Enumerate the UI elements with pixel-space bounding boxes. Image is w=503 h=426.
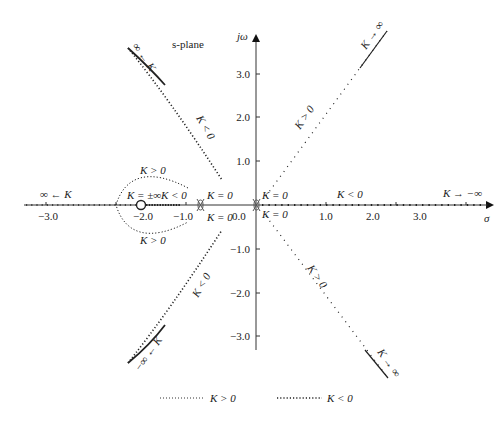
pole2-top-label: K = 0: [261, 189, 288, 201]
legend-label-negative: K < 0: [326, 392, 353, 404]
y-tick: −1.0: [230, 243, 250, 255]
x-tick: −1.0: [173, 210, 193, 222]
x-tick: 2.0: [366, 210, 380, 222]
y-axis-label: jω: [235, 30, 248, 42]
lower-left-end-label: −∞ ← K: [132, 334, 165, 373]
pole1-bottom-label: K = 0: [206, 211, 233, 223]
upper-right-branch-label: K > 0: [291, 103, 316, 132]
y-tick: −3.0: [230, 330, 250, 342]
root-locus-diagram: −3.0 −2.0 −1.0 0.0 1.0 2.0 3.0 3.0 2.0 1…: [0, 0, 503, 426]
upper-left-branch-label: K < 0: [194, 112, 218, 142]
right-axis-branch-label: K < 0: [336, 188, 363, 200]
legend: K > 0 K < 0: [160, 392, 353, 404]
x-axis-label: σ: [484, 212, 490, 224]
pole1-top-label: K = 0: [206, 189, 233, 201]
y-tick: 1.0: [236, 155, 250, 167]
legend-label-positive: K > 0: [209, 392, 236, 404]
y-tick: 2.0: [236, 111, 250, 123]
lower-right-branch-label: K > 0: [305, 261, 330, 290]
upper-left-end-label: ∞ ← K: [130, 40, 158, 73]
plane-title: s-plane: [172, 38, 204, 50]
left-axis-end-label: ∞ ← K: [40, 188, 72, 200]
zero-label: K = ±∞: [126, 189, 161, 201]
axes: [24, 36, 492, 350]
x-tick: 1.0: [319, 210, 333, 222]
y-tick: 3.0: [236, 68, 250, 80]
lower-left-branch: [128, 230, 222, 363]
upper-left-branch: [128, 48, 222, 180]
annotations: ∞ ← K K → −∞ K < 0 K > 0 K > 0 K = ±∞ K …: [40, 18, 482, 379]
right-axis-end-label: K → −∞: [442, 187, 482, 199]
x-tick: 3.0: [413, 210, 427, 222]
x-tick: 0.0: [232, 210, 246, 222]
pole2-bottom-label: K = 0: [261, 208, 288, 220]
circle-bottom-label: K > 0: [139, 234, 166, 246]
x-tick: −2.0: [133, 210, 153, 222]
lower-right-end-label: K → ∞: [375, 345, 404, 379]
upper-right-end-label: K → ∞: [357, 18, 386, 52]
x-tick: −3.0: [38, 210, 58, 222]
lower-right-branch: [266, 216, 388, 378]
circle-top-label: K > 0: [139, 164, 166, 176]
zero-marker: [137, 201, 146, 210]
segment-label: K < 0: [160, 189, 187, 201]
y-tick: −2.0: [230, 287, 250, 299]
